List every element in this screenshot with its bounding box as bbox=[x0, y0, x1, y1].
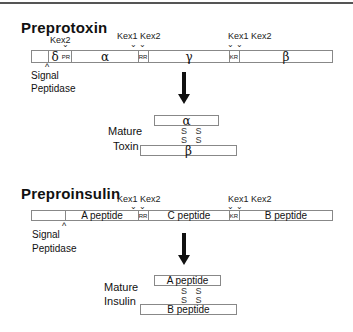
cleavage-arrow-icon: ⌄ bbox=[130, 41, 137, 49]
pr-site: PR bbox=[61, 51, 71, 62]
mature-a-peptide-label: A peptide bbox=[167, 275, 209, 286]
mature-alpha-box: α bbox=[154, 115, 219, 126]
alpha-segment: α bbox=[72, 51, 138, 62]
cleavage-arrow-icon: ⌄ bbox=[62, 41, 69, 49]
toxin-label: Toxin bbox=[113, 139, 139, 153]
mature-label: Mature bbox=[108, 124, 142, 138]
preproinsulin-title: Preproinsulin bbox=[21, 185, 120, 202]
beta-segment: β bbox=[240, 51, 332, 62]
insulin-label: Insulin bbox=[104, 294, 136, 308]
b-peptide-segment: B peptide bbox=[240, 211, 332, 220]
gamma-segment: γ bbox=[149, 51, 229, 62]
preprotoxin-bar: δ PR α RR γ KR β bbox=[31, 50, 333, 63]
mature-b-peptide-label: B peptide bbox=[167, 304, 209, 315]
preprotoxin-title: Preprotoxin bbox=[21, 19, 107, 36]
processing-arrow-icon bbox=[178, 233, 190, 265]
peptidase-label: Peptidase bbox=[31, 82, 75, 95]
mature-label: Mature bbox=[104, 280, 138, 294]
top-rule bbox=[0, 2, 353, 4]
rr-site: RR bbox=[138, 211, 148, 220]
c-peptide-segment: C peptide bbox=[149, 211, 229, 220]
kex2-label-insulin-2: Kex2 bbox=[251, 194, 272, 204]
cleavage-arrow-icon: ⌄ bbox=[227, 41, 234, 49]
mature-beta-label: β bbox=[185, 144, 192, 158]
cleavage-arrow-icon: ⌄ bbox=[236, 41, 243, 49]
cleavage-arrow-icon: ⌄ bbox=[139, 41, 146, 49]
mature-a-peptide-box: A peptide bbox=[154, 275, 221, 286]
kr-site: KR bbox=[229, 51, 239, 62]
signal-peptidase-arrow-icon: ^ bbox=[62, 221, 66, 231]
kex2-label-toxin-3: Kex2 bbox=[251, 31, 272, 41]
mature-beta-box: β bbox=[140, 145, 237, 156]
peptidase-label: Peptidase bbox=[32, 242, 76, 255]
signal-label: Signal bbox=[32, 228, 60, 241]
a-peptide-segment: A peptide bbox=[66, 211, 138, 220]
kr-site: KR bbox=[229, 211, 239, 220]
signal-label: Signal bbox=[31, 69, 59, 82]
rr-site: RR bbox=[138, 51, 148, 62]
delta-segment: δ bbox=[48, 51, 62, 62]
processing-arrow-icon bbox=[178, 72, 190, 104]
mature-b-peptide-box: B peptide bbox=[140, 304, 237, 315]
preproinsulin-bar: A peptide RR C peptide KR B peptide bbox=[31, 210, 333, 221]
